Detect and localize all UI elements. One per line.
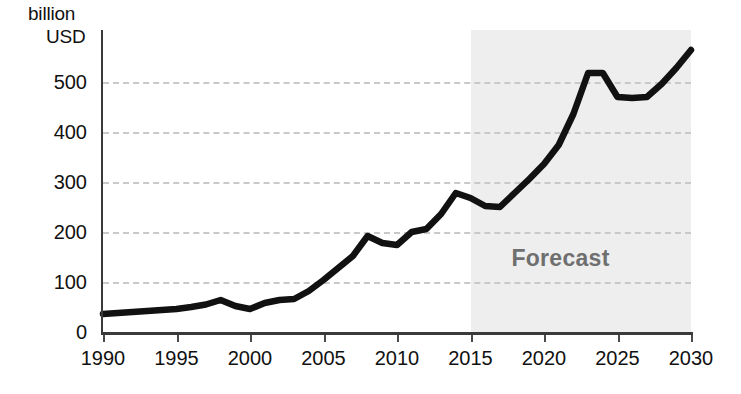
x-tick-mark-1995 [177, 335, 179, 342]
x-tick-mark-2030 [691, 335, 693, 342]
y-tick-label-300: 300 [13, 172, 87, 192]
x-tick-mark-2020 [544, 335, 546, 342]
y-tick-label-200: 200 [13, 222, 87, 242]
x-tick-mark-2010 [397, 335, 399, 342]
x-tick-mark-2015 [471, 335, 473, 342]
series-svg [103, 30, 691, 332]
chart-container: billion USD Forecast 0100200300400500 19… [0, 0, 741, 394]
x-tick-label-2030: 2030 [651, 347, 731, 369]
plot-area: Forecast [103, 30, 691, 332]
x-tick-mark-2025 [618, 335, 620, 342]
y-axis-line [101, 30, 103, 334]
x-tick-mark-2005 [324, 335, 326, 342]
x-tick-label-1990: 1990 [63, 347, 143, 369]
unit-caption-line-1: billion [26, 2, 118, 25]
y-tick-label-100: 100 [13, 272, 87, 292]
market-size-line [103, 50, 691, 314]
x-tick-mark-1990 [103, 335, 105, 342]
y-tick-label-400: 400 [13, 122, 87, 142]
x-tick-label-2005: 2005 [284, 347, 364, 369]
x-tick-label-2000: 2000 [210, 347, 290, 369]
x-tick-label-2020: 2020 [504, 347, 584, 369]
x-tick-mark-2000 [250, 335, 252, 342]
x-tick-label-2015: 2015 [431, 347, 511, 369]
y-tick-label-0: 0 [13, 322, 87, 342]
x-tick-label-1995: 1995 [137, 347, 217, 369]
x-tick-label-2010: 2010 [357, 347, 437, 369]
y-tick-label-500: 500 [13, 72, 87, 92]
x-tick-label-2025: 2025 [578, 347, 658, 369]
